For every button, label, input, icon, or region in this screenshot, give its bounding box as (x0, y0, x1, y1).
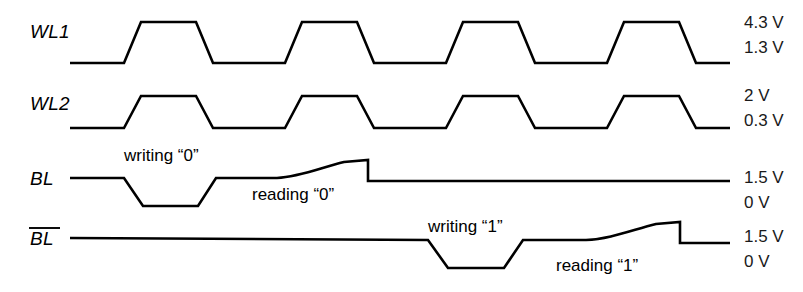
voltage-label-wl1-low: 1.3 V (744, 38, 784, 57)
waveform-trace-wl2 (70, 96, 730, 128)
signal-label-blbar: BL (30, 228, 54, 249)
annotation-writing-0: writing “0” (123, 146, 199, 165)
waveform-canvas: WL1 4.3 V 1.3 V WL2 2 V 0.3 V BL 1.5 V 0… (0, 0, 803, 292)
waveform-trace-wl1 (70, 22, 730, 63)
annotation-reading-1: reading “1” (556, 256, 639, 275)
voltage-label-bl-low: 0 V (744, 193, 770, 212)
voltage-label-blbar-high: 1.5 V (744, 227, 784, 246)
voltage-label-wl1-high: 4.3 V (744, 13, 784, 32)
timing-diagram-figure: WL1 4.3 V 1.3 V WL2 2 V 0.3 V BL 1.5 V 0… (0, 0, 803, 292)
signal-label-bl: BL (30, 168, 54, 189)
voltage-label-wl2-high: 2 V (744, 86, 770, 105)
voltage-label-wl2-low: 0.3 V (744, 111, 784, 130)
signal-label-wl1: WL1 (30, 21, 70, 42)
waveform-trace-bl (70, 160, 730, 206)
signal-label-wl2: WL2 (30, 93, 70, 114)
annotation-reading-0: reading “0” (252, 185, 335, 204)
annotation-writing-1: writing “1” (427, 217, 503, 236)
voltage-label-blbar-low: 0 V (744, 252, 770, 271)
voltage-label-bl-high: 1.5 V (744, 168, 784, 187)
